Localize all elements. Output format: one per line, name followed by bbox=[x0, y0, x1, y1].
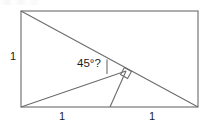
main-diagonal-line bbox=[21, 11, 198, 107]
geometry-canvas bbox=[0, 0, 217, 133]
label-side-left: 1 bbox=[10, 51, 16, 62]
lower-diagonal-line bbox=[21, 71, 126, 107]
label-bottom-left: 1 bbox=[59, 111, 65, 122]
right-angle-marker bbox=[121, 68, 132, 79]
label-angle-question: 45°? bbox=[77, 58, 101, 69]
label-bottom-right: 1 bbox=[149, 111, 155, 122]
geometry-figure: 1 1 1 45°? bbox=[0, 0, 217, 133]
